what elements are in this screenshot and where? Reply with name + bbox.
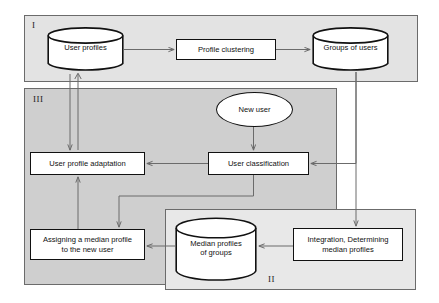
process-assigning-median-profile-label: Assigning a median profile to the new us… — [43, 235, 132, 254]
process-integration-label: Integration, Determining median profiles — [307, 235, 388, 254]
process-user-classification-label: User classification — [228, 159, 289, 168]
integration-line-2: median profiles — [322, 245, 374, 254]
process-user-profile-adaptation-label: User profile adaptation — [49, 159, 125, 168]
process-diagram: I III II — [0, 0, 439, 303]
median-profiles-line-1: Median profiles — [190, 239, 242, 248]
terminator-new-user-label: New user — [238, 105, 270, 114]
process-assigning-median-profile: Assigning a median profile to the new us… — [30, 229, 145, 260]
datastore-median-profiles-of-groups-label: Median profiles of groups — [175, 239, 257, 258]
median-profiles-line-2: of groups — [200, 248, 232, 257]
datastore-user-profiles: User profiles — [47, 27, 124, 72]
process-user-classification: User classification — [208, 152, 309, 175]
datastore-groups-of-users: Groups of users — [312, 27, 389, 72]
datastore-groups-of-users-label: Groups of users — [312, 43, 389, 52]
datastore-median-profiles-of-groups: Median profiles of groups — [175, 217, 257, 283]
terminator-new-user: New user — [216, 92, 293, 127]
integration-line-1: Integration, Determining — [307, 235, 388, 244]
process-user-profile-adaptation: User profile adaptation — [30, 152, 145, 175]
process-integration-determining-median-profiles: Integration, Determining median profiles — [293, 228, 403, 261]
assigning-line-2: to the new user — [62, 245, 114, 254]
datastore-user-profiles-label: User profiles — [47, 43, 124, 52]
process-profile-clustering: Profile clustering — [176, 39, 276, 60]
assigning-line-1: Assigning a median profile — [43, 235, 132, 244]
process-profile-clustering-label: Profile clustering — [198, 45, 254, 54]
edge-groups-to-classification — [311, 72, 356, 164]
